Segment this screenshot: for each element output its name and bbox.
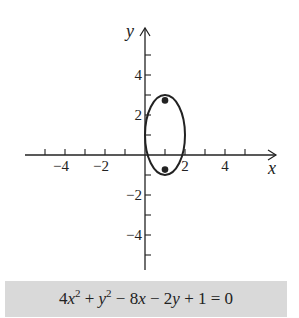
ellipse-graph: −4−22442−2−4xy [0,0,299,280]
x-tick-label: −2 [93,158,109,174]
y-tick-label: 2 [135,107,143,123]
x-axis-label: x [267,158,276,178]
x-tick-label: 2 [181,158,189,174]
y-axis-label: y [124,21,134,41]
focus-point [162,97,169,104]
y-tick-label: 4 [135,67,143,83]
equation-text: 4x2 + y2 − 8x − 2y + 1 = 0 [59,289,233,309]
equation-box: 4x2 + y2 − 8x − 2y + 1 = 0 [5,281,287,317]
x-tick-label: −4 [53,158,69,174]
y-tick-label: −2 [126,187,142,203]
focus-point [162,166,169,173]
x-tick-label: 4 [221,158,229,174]
y-tick-label: −4 [126,227,142,243]
